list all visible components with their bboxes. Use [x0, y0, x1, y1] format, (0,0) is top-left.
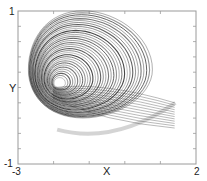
- attractor-chart: 1 -1 -3 2 Y X: [0, 0, 207, 181]
- x-tick-right: 2: [194, 166, 200, 177]
- x-axis-label: X: [103, 165, 111, 177]
- trajectory: [28, 11, 175, 134]
- x-tick-left: -3: [12, 166, 21, 177]
- y-axis-label: Y: [9, 82, 17, 94]
- y-tick-top: 1: [9, 6, 15, 17]
